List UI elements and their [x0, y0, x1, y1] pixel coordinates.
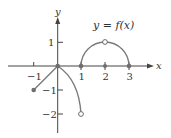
function-graph: y = f(x) y x −1 1 2 3 1 −1 −2 — [0, 0, 171, 138]
x-axis-label: x — [156, 60, 162, 71]
y-axis-arrow-icon — [55, 17, 60, 24]
graph-canvas: y = f(x) y x −1 1 2 3 1 −1 −2 — [0, 0, 171, 138]
y-tick-label: 1 — [48, 37, 54, 48]
closed-point — [127, 64, 132, 69]
closed-point — [103, 64, 107, 68]
y-tick-label: −2 — [42, 109, 57, 120]
x-axis-arrow-icon — [147, 64, 154, 69]
closed-point — [31, 88, 36, 93]
function-title: y = f(x) — [92, 19, 134, 32]
y-tick-label: −1 — [42, 85, 57, 96]
closed-point — [79, 64, 84, 69]
open-point — [103, 40, 108, 45]
open-point — [79, 112, 84, 117]
x-tick-label: 2 — [103, 71, 109, 82]
x-tick-label: 3 — [127, 71, 133, 82]
x-tick-label: −1 — [27, 71, 42, 82]
closed-point — [55, 64, 60, 69]
y-axis-label: y — [54, 6, 61, 17]
x-tick-label: 1 — [79, 71, 85, 82]
